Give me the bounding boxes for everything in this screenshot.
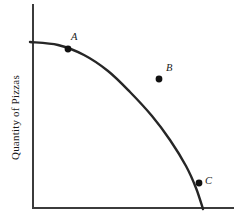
data-point-c-dot bbox=[196, 180, 203, 187]
y-axis-title: Quantity of Pizzas bbox=[9, 75, 21, 160]
chart-canvas: A B C Quantity of Pizzas bbox=[0, 0, 239, 223]
data-point-b-label: B bbox=[166, 62, 173, 73]
ppf-chart-figure: A B C Quantity of Pizzas bbox=[0, 0, 239, 223]
data-point-c-label: C bbox=[205, 175, 213, 186]
production-possibilities-curve bbox=[30, 42, 203, 209]
data-point-a-label: A bbox=[70, 31, 78, 42]
data-point-a-dot bbox=[65, 46, 72, 53]
data-point-b-dot bbox=[156, 76, 163, 83]
